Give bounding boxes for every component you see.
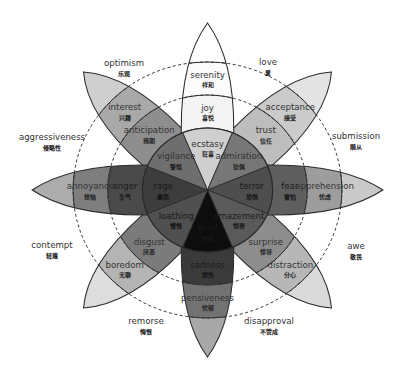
label-pensiveness-en: pensiveness bbox=[181, 293, 235, 303]
label-joy-zh: 喜悦 bbox=[202, 114, 214, 122]
label-vigilance-zh: 警惕 bbox=[169, 163, 182, 171]
label-fear-zh: 害怕 bbox=[284, 193, 296, 201]
dyad-awe-en: awe bbox=[347, 241, 365, 251]
label-serenity-zh: 祥和 bbox=[202, 81, 214, 89]
label-terror-en: terror bbox=[240, 181, 265, 191]
dyad-love-en: love bbox=[259, 57, 277, 67]
label-sadness-en: sadness bbox=[190, 260, 225, 270]
label-grief-zh: 悲痛 bbox=[202, 235, 214, 243]
label-rage-zh: 暴怒 bbox=[156, 193, 169, 201]
label-loathing-zh: 憎恨 bbox=[170, 222, 182, 230]
label-admiration-zh: 钦佩 bbox=[233, 163, 245, 171]
label-boredom-zh: 无聊 bbox=[118, 271, 131, 279]
label-acceptance-en: acceptance bbox=[266, 102, 316, 112]
dyad-optimism: optimism乐观 bbox=[104, 58, 144, 78]
label-trust-zh: 信任 bbox=[260, 137, 272, 145]
label-annoyance-zh: 烦恼 bbox=[84, 193, 96, 201]
label-disgust-zh: 厌恶 bbox=[143, 248, 155, 256]
label-rage-en: rage bbox=[153, 181, 173, 191]
label-anger-en: anger bbox=[113, 181, 138, 191]
label-distraction-zh: 分心 bbox=[284, 271, 296, 279]
dyad-love-zh: 爱 bbox=[265, 69, 271, 77]
label-acceptance-zh: 接受 bbox=[283, 114, 296, 122]
label-disgust-en: disgust bbox=[134, 237, 166, 247]
dyad-aggressiveness: aggressiveness侵略性 bbox=[19, 132, 86, 152]
dyad-disapproval-en: disapproval bbox=[244, 316, 294, 326]
dyad-submission: submission顺从 bbox=[332, 131, 380, 151]
label-grief-en: grief bbox=[198, 223, 219, 233]
label-anticipation-zh: 预期 bbox=[143, 137, 155, 145]
dyad-contempt: contempt轻蔑 bbox=[31, 240, 73, 260]
label-joy-en: joy bbox=[200, 103, 214, 113]
dyad-aggressiveness-zh: 侵略性 bbox=[42, 144, 61, 152]
dyad-remorse: remorse悔恨 bbox=[128, 316, 164, 336]
label-loathing-en: loathing bbox=[159, 211, 194, 221]
label-admiration-en: admiration bbox=[215, 151, 262, 161]
label-ecstasy-zh: 狂喜 bbox=[202, 150, 214, 158]
label-vigilance-en: vigilance bbox=[157, 151, 195, 161]
label-boredom-en: boredom bbox=[105, 260, 143, 270]
label-interest-en: interest bbox=[108, 102, 142, 112]
label-amazement-zh: 惊奇 bbox=[232, 222, 245, 230]
label-apprehension-zh: 忧虑 bbox=[318, 193, 331, 201]
dyad-contempt-zh: 轻蔑 bbox=[46, 252, 58, 260]
label-pensiveness-zh: 忧郁 bbox=[201, 304, 214, 312]
dyad-submission-zh: 顺从 bbox=[350, 143, 362, 151]
label-terror-zh: 恐惧 bbox=[246, 193, 258, 201]
dyad-awe: awe敬畏 bbox=[347, 241, 365, 261]
dyad-optimism-en: optimism bbox=[104, 58, 144, 68]
dyad-submission-en: submission bbox=[332, 131, 380, 141]
dyad-remorse-zh: 悔恨 bbox=[140, 328, 152, 336]
label-sadness-zh: 悲伤 bbox=[202, 271, 214, 279]
label-apprehension-en: apprehension bbox=[295, 181, 354, 191]
label-surprise-zh: 惊讶 bbox=[259, 248, 272, 256]
dyad-aggressiveness-en: aggressiveness bbox=[19, 132, 86, 142]
label-annoyance-en: annoyance bbox=[67, 181, 114, 191]
label-ecstasy-en: ecstasy bbox=[191, 139, 224, 149]
dyad-optimism-zh: 乐观 bbox=[118, 70, 130, 78]
label-trust-en: trust bbox=[256, 125, 277, 135]
dyad-awe-zh: 敬畏 bbox=[349, 253, 362, 261]
label-serenity-en: serenity bbox=[190, 70, 225, 80]
label-interest-zh: 兴趣 bbox=[119, 114, 132, 122]
dyad-love: love爱 bbox=[259, 57, 277, 77]
label-joy: joy喜悦 bbox=[200, 103, 214, 123]
label-distraction-en: distraction bbox=[267, 260, 313, 270]
label-anger-zh: 生气 bbox=[119, 193, 131, 201]
emotion-wheel-diagram: ecstasy狂喜joy喜悦serenity祥和admiration钦佩trus… bbox=[0, 0, 407, 382]
dyad-remorse-en: remorse bbox=[128, 316, 164, 326]
label-anticipation-en: anticipation bbox=[124, 125, 175, 135]
dyad-disapproval: disapproval不赞成 bbox=[244, 316, 294, 336]
label-amazement-en: amazement bbox=[213, 211, 265, 221]
dyad-disapproval-zh: 不赞成 bbox=[260, 328, 278, 336]
dyad-contempt-en: contempt bbox=[31, 240, 73, 250]
label-surprise-en: surprise bbox=[248, 237, 283, 247]
